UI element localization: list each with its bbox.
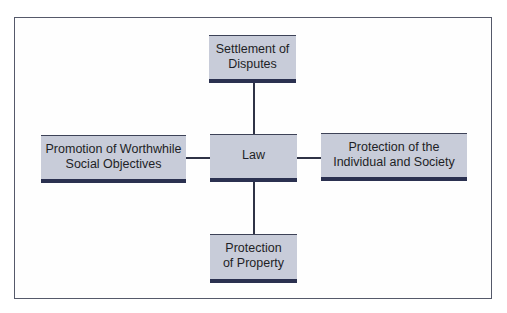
node-law: Law — [210, 134, 297, 182]
node-promotion-of-social-objectives: Promotion of Worthwhile Social Objective… — [41, 135, 186, 183]
node-label-line2: of Property — [223, 256, 284, 271]
connector-left — [186, 157, 210, 159]
node-protection-of-property: Protection of Property — [210, 234, 297, 283]
node-label-line1: Protection — [223, 241, 284, 256]
node-label-line2: Disputes — [216, 57, 290, 72]
connector-bottom — [253, 182, 255, 235]
node-label-line2: Individual and Society — [333, 155, 455, 170]
connector-right — [297, 157, 321, 159]
node-label-line1: Promotion of Worthwhile — [46, 142, 182, 157]
node-protection-of-individual-and-society: Protection of the Individual and Society — [321, 133, 467, 181]
node-settlement-of-disputes: Settlement of Disputes — [209, 35, 296, 83]
node-label-line1: Settlement of — [216, 42, 290, 57]
node-label-line1: Protection of the — [333, 140, 455, 155]
connector-top — [253, 83, 255, 135]
node-label-line2: Social Objectives — [46, 157, 182, 172]
node-label-law: Law — [242, 148, 265, 163]
